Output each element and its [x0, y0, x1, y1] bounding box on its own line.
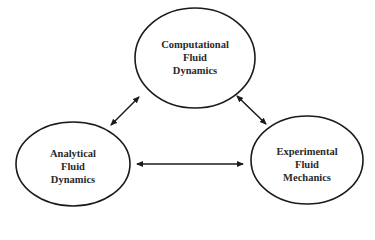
label-line: Mechanics — [252, 171, 362, 184]
label-line: Experimental — [252, 145, 362, 158]
label-line: Dynamics — [18, 173, 128, 186]
label-computational-fluid-dynamics: Computational Fluid Dynamics — [140, 38, 250, 77]
arrow-cfd-efm — [237, 96, 266, 124]
label-line: Fluid — [252, 158, 362, 171]
label-line: Computational — [140, 38, 250, 51]
label-line: Dynamics — [140, 64, 250, 77]
label-analytical-fluid-dynamics: Analytical Fluid Dynamics — [18, 147, 128, 186]
label-line: Analytical — [18, 147, 128, 160]
label-line: Fluid — [140, 51, 250, 64]
arrow-cfd-afd — [111, 97, 139, 125]
label-line: Fluid — [18, 160, 128, 173]
label-experimental-fluid-mechanics: Experimental Fluid Mechanics — [252, 145, 362, 184]
